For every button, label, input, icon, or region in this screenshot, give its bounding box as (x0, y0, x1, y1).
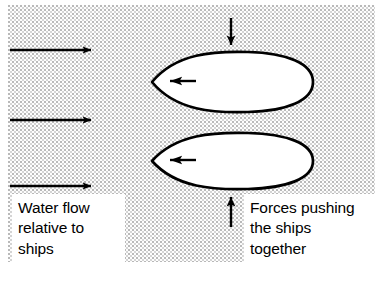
water-flow-arrow-group (10, 50, 91, 186)
upper-ship-hull (152, 52, 313, 112)
lower-ship-hull (152, 133, 313, 189)
water-flow-caption: Water flow relative to ships (12, 194, 125, 264)
ship-interaction-figure: Water flow relative to ships Forces push… (0, 0, 381, 285)
forces-caption: Forces pushing the ships together (244, 194, 381, 264)
